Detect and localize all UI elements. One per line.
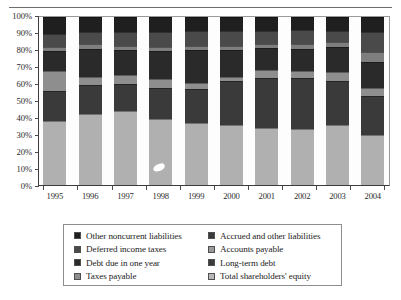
bar-segment <box>79 32 102 44</box>
bar-segment <box>291 49 314 71</box>
legend-item[interactable]: Accounts payable <box>208 244 333 254</box>
legend-item[interactable]: Accrued and other liabilities <box>208 231 333 241</box>
legend-swatch-icon <box>208 232 215 239</box>
bar-segment <box>43 51 66 71</box>
bars-container <box>39 17 388 185</box>
x-axis-tick-label: 1997 <box>114 192 137 201</box>
bar-segment <box>114 32 137 45</box>
bar-segment <box>255 78 278 128</box>
bar-segment <box>149 32 172 47</box>
plot-area: 0%10%20%30%40%50%60%70%80%90%100% 199519… <box>0 16 401 206</box>
bar-segment <box>43 121 66 185</box>
x-axis-tick <box>180 186 181 190</box>
bar-segment <box>220 125 243 185</box>
bar-segment <box>361 88 384 96</box>
bar-segment <box>43 34 66 47</box>
bar-2001 <box>255 17 278 185</box>
y-axis-tick <box>35 186 39 187</box>
bar-segment <box>79 114 102 185</box>
x-axis-tick <box>384 186 385 190</box>
bar-segment <box>185 83 208 90</box>
bar-segment <box>291 30 314 43</box>
bar-segment <box>114 111 137 185</box>
bar-segment <box>149 88 172 119</box>
legend-item-label: Taxes payable <box>86 271 136 281</box>
x-axis-tick-label: 2000 <box>220 192 243 201</box>
legend-item[interactable]: Taxes payable <box>74 271 208 281</box>
bar-segment <box>79 85 102 114</box>
x-axis-tick <box>77 186 78 190</box>
bar-1997 <box>114 17 137 185</box>
bar-segment <box>149 119 172 185</box>
bar-segment <box>255 31 278 44</box>
x-axis-tick <box>316 186 317 190</box>
bar-segment <box>291 78 314 129</box>
x-axis-tick-label: 1995 <box>43 192 66 201</box>
legend-swatch-icon <box>74 232 81 239</box>
y-axis-tick <box>35 135 39 136</box>
bar-segment <box>114 17 137 32</box>
top-horizontal-rule <box>9 7 392 8</box>
legend-item[interactable]: Other noncurrent liabilities <box>74 231 208 241</box>
bar-segment <box>43 71 66 91</box>
bar-segment <box>291 71 314 78</box>
legend-item-label: Long-term debt <box>220 258 275 268</box>
x-axis-tick <box>112 186 113 190</box>
bar-segment <box>326 81 349 125</box>
bar-segment <box>255 128 278 185</box>
x-axis-tick <box>43 186 44 190</box>
legend-swatch-icon <box>208 259 215 266</box>
x-axis-labels: 1995199619971998199920002001200220032004 <box>39 192 388 201</box>
bar-segment <box>326 125 349 185</box>
legend-item-label: Other noncurrent liabilities <box>86 231 182 241</box>
bar-segment <box>79 17 102 32</box>
y-axis-tick <box>35 101 39 102</box>
bar-segment <box>185 89 208 123</box>
x-axis-tick-label: 2002 <box>291 192 314 201</box>
bar-2004 <box>361 17 384 185</box>
y-axis-tick <box>35 169 39 170</box>
bar-1996 <box>79 17 102 185</box>
bar-segment <box>361 32 384 52</box>
bar-segment <box>326 17 349 30</box>
legend-swatch-icon <box>208 246 215 253</box>
bar-segment <box>114 84 137 111</box>
y-axis-tick-label: 90% <box>17 29 32 38</box>
bar-segment <box>255 70 278 78</box>
y-axis-tick-label: 10% <box>17 165 32 174</box>
x-axis-tick-label: 1996 <box>79 192 102 201</box>
x-axis-tick <box>350 186 351 190</box>
legend-item-label: Deferred income taxes <box>86 244 166 254</box>
legend-item[interactable]: Total shareholders' equity <box>208 271 333 281</box>
bar-segment <box>79 49 102 77</box>
x-axis-tick <box>248 186 249 190</box>
bar-segment <box>220 31 243 46</box>
x-axis-tick <box>214 186 215 190</box>
legend-swatch-icon <box>74 273 81 280</box>
y-axis-tick-label: 30% <box>17 131 32 140</box>
x-axis-tick-label: 1998 <box>149 192 172 201</box>
y-axis-tick <box>35 84 39 85</box>
legend-item-label: Accrued and other liabilities <box>220 231 320 241</box>
legend-swatch-icon <box>208 273 215 280</box>
bar-2003 <box>326 17 349 185</box>
legend-item[interactable]: Debt due in one year <box>74 258 208 268</box>
bar-1999 <box>185 17 208 185</box>
bar-segment <box>149 79 172 87</box>
legend-item-label: Debt due in one year <box>86 258 160 268</box>
y-axis-tick <box>35 33 39 34</box>
bar-segment <box>361 17 384 32</box>
bar-segment <box>291 129 314 185</box>
y-axis-tick-label: 70% <box>17 63 32 72</box>
y-axis-tick <box>35 16 39 17</box>
y-axis-tick <box>35 152 39 153</box>
legend-item[interactable]: Long-term debt <box>208 258 333 268</box>
bar-segment <box>114 50 137 75</box>
bar-segment <box>149 17 172 32</box>
bar-segment <box>326 31 349 43</box>
y-axis-tick <box>35 50 39 51</box>
legend-item[interactable]: Deferred income taxes <box>74 244 208 254</box>
y-axis-tick <box>35 118 39 119</box>
y-axis-tick-label: 50% <box>17 97 32 106</box>
bar-segment <box>361 62 384 87</box>
